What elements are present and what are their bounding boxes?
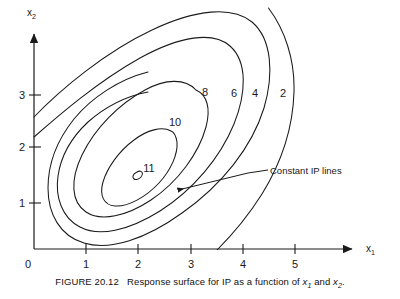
- contour-line-4: [34, 12, 270, 246]
- figure-caption: FIGURE 20.12 Response surface for IP as …: [0, 276, 400, 289]
- origin-label: 0: [25, 258, 31, 270]
- caption-text-part-2: and: [311, 276, 333, 287]
- annotation-group: Constant IP lines: [178, 165, 342, 190]
- contour-line-10: [102, 129, 177, 206]
- x-axis-label-sub: 1: [371, 249, 375, 256]
- contour-label-6: 6: [231, 87, 237, 99]
- x-axis-label: x1: [366, 243, 375, 256]
- contour-label-8: 8: [202, 86, 208, 98]
- x-tick-label-1: 1: [83, 258, 89, 270]
- x-tick-label-5: 5: [292, 258, 298, 270]
- y-tick-label-2: 2: [19, 141, 25, 153]
- caption-figure-number: FIGURE 20.12: [55, 276, 119, 287]
- x-tick-label-2: 2: [135, 258, 141, 270]
- axes-group: 1 2 3 4 5 1 2 3 0 x1 x2: [19, 7, 375, 270]
- caption-gap: [119, 276, 127, 287]
- x-tick-label-4: 4: [240, 258, 246, 270]
- contour-label-11: 11: [143, 162, 154, 174]
- contour-line-11: [133, 171, 142, 179]
- contour-lines-group: [34, 8, 294, 250]
- contour-label-2: 2: [280, 87, 286, 99]
- y-axis-label: x2: [27, 7, 36, 20]
- annotation-leader-line: [178, 170, 268, 190]
- contour-labels-group: 2 4 6 8 10 11: [143, 86, 286, 174]
- contour-plot: 1 2 3 4 5 1 2 3 0 x1 x2 2 4 6 8: [0, 0, 400, 299]
- contour-line-6: [34, 37, 243, 231]
- y-axis-label-sub: 2: [32, 13, 36, 20]
- y-tick-label-1: 1: [19, 197, 25, 209]
- caption-text-part-1: Response surface for IP as a function of: [127, 276, 303, 287]
- contour-line-8: [74, 81, 208, 217]
- y-tick-label-3: 3: [19, 89, 25, 101]
- annotation-text: Constant IP lines: [270, 165, 342, 176]
- contour-label-4: 4: [252, 87, 258, 99]
- figure-container: 1 2 3 4 5 1 2 3 0 x1 x2 2 4 6 8: [0, 0, 400, 299]
- caption-text-part-3: .: [342, 276, 345, 287]
- x-tick-label-3: 3: [188, 258, 194, 270]
- contour-label-10: 10: [169, 116, 181, 128]
